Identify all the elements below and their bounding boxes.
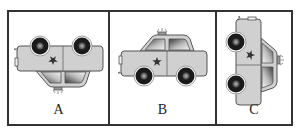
- panel-label-b: B: [110, 102, 215, 118]
- panel-label-a: A: [9, 102, 108, 118]
- police-car-rotated-icon: [217, 14, 291, 114]
- panel-a: A: [9, 12, 108, 124]
- panel-label-c: C: [217, 102, 291, 118]
- panel-b: B: [110, 12, 215, 124]
- police-car-upside-down-icon: [9, 20, 108, 100]
- panel-c: C: [217, 12, 291, 124]
- police-car-upright-icon: [110, 24, 215, 104]
